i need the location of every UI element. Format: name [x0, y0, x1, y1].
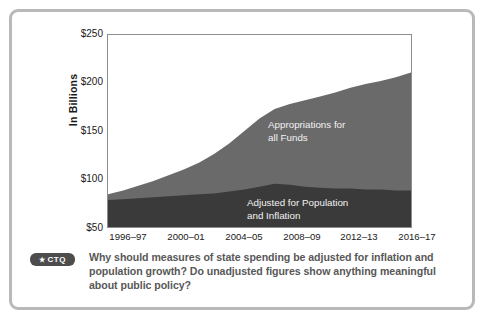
- plot-area: Appropriations for all Funds Adjusted fo…: [107, 34, 412, 228]
- x-axis-tick-label: 2000–01: [167, 231, 204, 242]
- appropriations-label-line2: all Funds: [268, 132, 345, 145]
- y-axis-tick-label: $100: [39, 173, 103, 184]
- adjusted-series-label: Adjusted for Population and Inflation: [247, 197, 348, 222]
- caption-question-text: Why should measures of state spending be…: [89, 250, 439, 293]
- y-axis-ticks: $250 $200 $150 $100 $50: [37, 34, 103, 228]
- plot-wrapper: Appropriations for all Funds Adjusted fo…: [107, 34, 412, 228]
- ctq-badge-label: CTQ: [47, 255, 66, 264]
- x-axis-tick-label: 2016–17: [398, 231, 435, 242]
- y-axis-tick-label: $200: [39, 76, 103, 87]
- y-axis-tick-label: $150: [39, 125, 103, 136]
- y-axis-tick-label: $250: [39, 28, 103, 39]
- appropriations-label-line1: Appropriations for: [268, 119, 345, 132]
- adjusted-label-line1: Adjusted for Population: [247, 197, 348, 210]
- x-axis-tick-label: 1996–97: [109, 231, 146, 242]
- x-axis-tick-label: 2004–05: [225, 231, 262, 242]
- caption-block: ★ CTQ Why should measures of state spend…: [30, 252, 450, 300]
- y-axis-tick-label: $50: [39, 222, 103, 233]
- x-axis-tick-label: 2008–09: [283, 231, 320, 242]
- ctq-badge: ★ CTQ: [30, 253, 75, 266]
- x-axis-tick-label: 2012–13: [340, 231, 377, 242]
- adjusted-label-line2: and Inflation: [247, 210, 348, 223]
- x-axis-ticks: 1996–97 2000–01 2004–05 2008–09 2012–13 …: [107, 231, 417, 247]
- figure-container: In Billions $250 $200 $150 $100 $50 Appr…: [0, 0, 484, 319]
- appropriations-series-label: Appropriations for all Funds: [268, 119, 345, 144]
- star-icon: ★: [39, 256, 46, 263]
- chart: In Billions $250 $200 $150 $100 $50 Appr…: [37, 18, 429, 240]
